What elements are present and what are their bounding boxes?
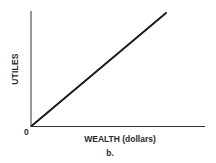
x-axis-label: WEALTH (dollars)	[84, 134, 156, 144]
figure-caption: b.	[106, 148, 114, 158]
y-axis-label: UTILES	[10, 53, 20, 84]
utility-line	[32, 13, 167, 126]
origin-label: 0	[24, 127, 29, 137]
